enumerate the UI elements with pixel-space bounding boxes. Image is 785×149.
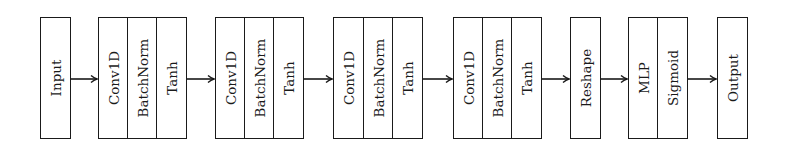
batchnorm-label: BatchNorm	[490, 39, 506, 118]
tanh-label: Tanh	[281, 61, 297, 94]
sigmoid-label: Sigmoid	[665, 50, 681, 106]
conv-block-2-batchnorm: BatchNorm	[244, 17, 275, 139]
conv-block-4-conv1d: Conv1D	[453, 17, 484, 139]
reshape-node: Reshape	[570, 17, 601, 139]
conv-block-1-batchnorm: BatchNorm	[127, 17, 158, 139]
batchnorm-label: BatchNorm	[135, 39, 151, 118]
reshape-label: Reshape	[578, 49, 594, 107]
batchnorm-label: BatchNorm	[371, 39, 387, 118]
sigmoid-node: Sigmoid	[657, 17, 688, 139]
input-node: Input	[40, 17, 71, 139]
tanh-label: Tanh	[164, 61, 180, 94]
input-label: Input	[48, 60, 64, 97]
conv-block-3-tanh: Tanh	[392, 17, 423, 139]
conv1d-label: Conv1D	[106, 51, 122, 105]
mlp-node: MLP	[628, 17, 659, 139]
conv-block-4-tanh: Tanh	[511, 17, 542, 139]
tanh-label: Tanh	[519, 61, 535, 94]
conv1d-label: Conv1D	[223, 51, 239, 105]
conv-block-4-batchnorm: BatchNorm	[482, 17, 513, 139]
conv-block-1-conv1d: Conv1D	[98, 17, 129, 139]
output-label: Output	[725, 54, 741, 102]
conv-block-2-conv1d: Conv1D	[215, 17, 246, 139]
output-node: Output	[717, 17, 748, 139]
conv1d-label: Conv1D	[341, 51, 357, 105]
batchnorm-label: BatchNorm	[252, 39, 268, 118]
conv-block-1-tanh: Tanh	[156, 17, 187, 139]
conv1d-label: Conv1D	[461, 51, 477, 105]
conv-block-2-tanh: Tanh	[273, 17, 304, 139]
conv-block-3-conv1d: Conv1D	[333, 17, 364, 139]
mlp-label: MLP	[636, 62, 652, 94]
tanh-label: Tanh	[400, 61, 416, 94]
conv-block-3-batchnorm: BatchNorm	[363, 17, 394, 139]
